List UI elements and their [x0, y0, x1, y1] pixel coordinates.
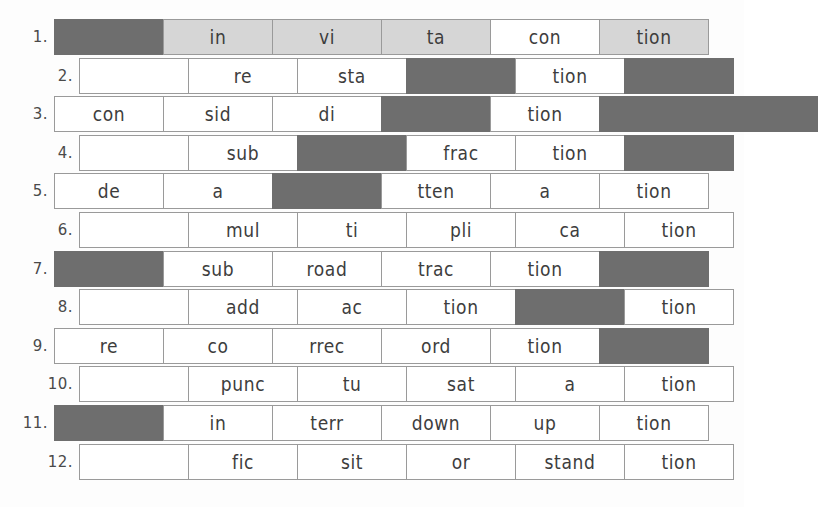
- syllable-cell[interactable]: tion: [599, 405, 709, 441]
- syllable-cell[interactable]: re: [188, 58, 298, 94]
- blocked-cell: [297, 135, 407, 171]
- syllable-cell[interactable]: ac: [297, 289, 407, 325]
- syllable-cell[interactable]: in: [163, 19, 273, 55]
- syllable-cell[interactable]: frac: [406, 135, 516, 171]
- blocked-cell: [624, 135, 734, 171]
- empty-cell[interactable]: [79, 444, 189, 480]
- grid-row: 8.addactiontion: [80, 289, 734, 325]
- syllable-cell[interactable]: tion: [406, 289, 516, 325]
- syllable-cell[interactable]: or: [406, 444, 516, 480]
- syllable-cell[interactable]: tion: [490, 328, 600, 364]
- syllable-cell[interactable]: tion: [490, 96, 600, 132]
- grid-row: 6.multiplication: [80, 212, 734, 248]
- grid-row: 10.punctusatation: [80, 366, 734, 402]
- syllable-cell[interactable]: stand: [515, 444, 625, 480]
- syllable-cell[interactable]: in: [163, 405, 273, 441]
- grid-row: 5.deattenation: [55, 173, 709, 209]
- syllable-cell[interactable]: road: [272, 251, 382, 287]
- syllable-cell[interactable]: ca: [515, 212, 625, 248]
- syllable-cell[interactable]: sid: [163, 96, 273, 132]
- grid-row: 2.restation: [80, 58, 734, 94]
- grid-row: 11.interrdownuption: [55, 405, 709, 441]
- row-number: 6.: [37, 212, 80, 248]
- syllable-cell[interactable]: a: [515, 366, 625, 402]
- syllable-cell[interactable]: up: [490, 405, 600, 441]
- syllable-cell[interactable]: sat: [406, 366, 516, 402]
- syllable-cell[interactable]: add: [188, 289, 298, 325]
- blocked-cell: [515, 289, 625, 325]
- empty-cell[interactable]: [79, 135, 189, 171]
- syllable-cell[interactable]: tion: [599, 173, 709, 209]
- syllable-cell[interactable]: tion: [624, 289, 734, 325]
- syllable-cell[interactable]: a: [490, 173, 600, 209]
- syllable-cell[interactable]: con: [54, 96, 164, 132]
- row-number: 10.: [37, 366, 80, 402]
- syllable-cell[interactable]: sub: [163, 251, 273, 287]
- syllable-cell[interactable]: mul: [188, 212, 298, 248]
- blocked-cell: [54, 19, 164, 55]
- syllable-cell[interactable]: tion: [624, 444, 734, 480]
- blocked-cell: [406, 58, 516, 94]
- blocked-cell: [54, 251, 164, 287]
- syllable-cell[interactable]: ti: [297, 212, 407, 248]
- grid-row: 4.subfraction: [80, 135, 734, 171]
- syllable-cell[interactable]: tion: [624, 212, 734, 248]
- row-number: 3.: [12, 96, 55, 132]
- syllable-cell[interactable]: tion: [490, 251, 600, 287]
- row-number: 5.: [12, 173, 55, 209]
- blocked-cell: [708, 96, 818, 132]
- syllable-cell[interactable]: pli: [406, 212, 516, 248]
- grid-row: 12.ficsitorstandtion: [80, 444, 734, 480]
- empty-cell[interactable]: [79, 212, 189, 248]
- empty-cell[interactable]: [79, 58, 189, 94]
- grid-row: 3.considdition: [55, 96, 818, 132]
- syllable-cell[interactable]: tion: [515, 58, 625, 94]
- syllable-cell[interactable]: sit: [297, 444, 407, 480]
- syllable-cell[interactable]: fic: [188, 444, 298, 480]
- syllable-cell[interactable]: sta: [297, 58, 407, 94]
- row-number: 4.: [37, 135, 80, 171]
- syllable-cell[interactable]: ta: [381, 19, 491, 55]
- blocked-cell: [272, 173, 382, 209]
- blocked-cell: [381, 96, 491, 132]
- syllable-cell[interactable]: di: [272, 96, 382, 132]
- syllable-cell[interactable]: sub: [188, 135, 298, 171]
- syllable-cell[interactable]: co: [163, 328, 273, 364]
- grid-row: 1.invitacontion: [55, 19, 709, 55]
- empty-cell[interactable]: [79, 366, 189, 402]
- syllable-cell[interactable]: terr: [272, 405, 382, 441]
- row-number: 12.: [37, 444, 80, 480]
- row-number: 11.: [12, 405, 55, 441]
- syllable-cell[interactable]: vi: [272, 19, 382, 55]
- syllable-cell[interactable]: tion: [599, 19, 709, 55]
- syllable-cell[interactable]: rrec: [272, 328, 382, 364]
- row-number: 2.: [37, 58, 80, 94]
- row-number: 9.: [12, 328, 55, 364]
- blocked-cell: [624, 58, 734, 94]
- syllable-cell[interactable]: de: [54, 173, 164, 209]
- row-number: 8.: [37, 289, 80, 325]
- syllable-cell[interactable]: re: [54, 328, 164, 364]
- blocked-cell: [599, 328, 709, 364]
- syllable-cell[interactable]: a: [163, 173, 273, 209]
- blocked-cell: [54, 405, 164, 441]
- empty-cell[interactable]: [79, 289, 189, 325]
- grid-row: 7.subroadtraction: [55, 251, 709, 287]
- syllable-cell[interactable]: tion: [515, 135, 625, 171]
- blocked-cell: [599, 96, 709, 132]
- syllable-cell[interactable]: ord: [381, 328, 491, 364]
- syllable-cell[interactable]: tu: [297, 366, 407, 402]
- syllable-cell[interactable]: down: [381, 405, 491, 441]
- blocked-cell: [599, 251, 709, 287]
- syllable-cell[interactable]: tion: [624, 366, 734, 402]
- row-number: 7.: [12, 251, 55, 287]
- syllable-cell[interactable]: con: [490, 19, 600, 55]
- syllable-cell[interactable]: tten: [381, 173, 491, 209]
- grid-row: 9.recorrecordtion: [55, 328, 709, 364]
- syllable-cell[interactable]: punc: [188, 366, 298, 402]
- row-number: 1.: [12, 19, 55, 55]
- syllable-cell[interactable]: trac: [381, 251, 491, 287]
